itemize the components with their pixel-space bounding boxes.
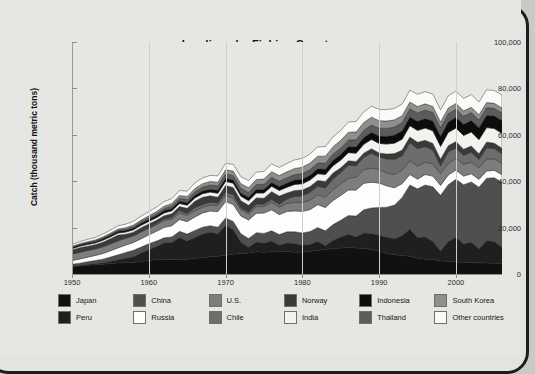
y-tick-label: 40,000	[455, 177, 521, 186]
legend-swatch-japan	[58, 294, 71, 307]
legend-swatch-us	[209, 294, 222, 307]
vertical-gridline	[379, 42, 380, 274]
x-tick-mark	[226, 274, 227, 278]
legend-swatch-russia	[133, 311, 146, 324]
y-tick-mark	[72, 88, 77, 89]
legend-item-peru[interactable]: Peru	[58, 311, 133, 324]
y-tick-mark	[72, 135, 77, 136]
y-tick-mark	[72, 228, 77, 229]
legend-swatch-other	[434, 311, 447, 324]
x-tick-mark	[72, 274, 73, 278]
legend-label: Chile	[227, 313, 244, 322]
vertical-gridline	[302, 42, 303, 274]
x-tick-label: 2000	[448, 278, 465, 287]
legend-row: PeruRussiaChileIndiaThailandOther countr…	[58, 311, 510, 324]
plot-area	[72, 42, 502, 274]
legend-swatch-peru	[58, 311, 71, 324]
legend-item-us[interactable]: U.S.	[209, 294, 284, 307]
legend-swatch-china	[133, 294, 146, 307]
legend-item-other[interactable]: Other countries	[434, 311, 509, 324]
legend-swatch-thailand	[359, 311, 372, 324]
stacked-area-series	[72, 42, 502, 274]
legend-item-indonesia[interactable]: Indonesia	[359, 294, 434, 307]
legend-item-chile[interactable]: Chile	[209, 311, 284, 324]
x-tick-label: 1950	[64, 278, 81, 287]
legend-label: China	[151, 296, 171, 305]
legend-label: Russia	[151, 313, 174, 322]
legend-label: U.S.	[227, 296, 242, 305]
chart-legend: JapanChinaU.S.NorwayIndonesiaSouth Korea…	[58, 294, 510, 328]
legend-item-india[interactable]: India	[284, 311, 359, 324]
vertical-gridline	[226, 42, 227, 274]
x-tick-mark	[302, 274, 303, 278]
y-tick-label: 0	[455, 270, 521, 279]
legend-label: Japan	[76, 296, 96, 305]
x-tick-mark	[149, 274, 150, 278]
legend-label: India	[302, 313, 318, 322]
x-tick-label: 1970	[217, 278, 234, 287]
chart-sheet: Landings by Fishing Country Source: The …	[0, 0, 521, 356]
legend-label: Peru	[76, 313, 92, 322]
x-tick-mark	[456, 274, 457, 278]
legend-swatch-indonesia	[359, 294, 372, 307]
legend-item-china[interactable]: China	[133, 294, 208, 307]
legend-item-norway[interactable]: Norway	[284, 294, 359, 307]
legend-swatch-norway	[284, 294, 297, 307]
legend-item-south_korea[interactable]: South Korea	[434, 294, 509, 307]
legend-row: JapanChinaU.S.NorwayIndonesiaSouth Korea	[58, 294, 510, 307]
y-tick-mark	[72, 181, 77, 182]
legend-item-japan[interactable]: Japan	[58, 294, 133, 307]
legend-label: Indonesia	[377, 296, 410, 305]
legend-label: Other countries	[452, 313, 503, 322]
legend-label: Norway	[302, 296, 327, 305]
legend-swatch-india	[284, 311, 297, 324]
vertical-gridline	[456, 42, 457, 274]
legend-swatch-chile	[209, 311, 222, 324]
x-tick-label: 1990	[371, 278, 388, 287]
x-tick-mark	[379, 274, 380, 278]
y-tick-label: 80,000	[455, 84, 521, 93]
vertical-gridline	[149, 42, 150, 274]
y-axis-label: Catch (thousand metric tons)	[29, 67, 39, 227]
legend-label: Thailand	[377, 313, 406, 322]
y-axis-line	[72, 42, 73, 274]
legend-item-thailand[interactable]: Thailand	[359, 311, 434, 324]
x-tick-label: 1960	[140, 278, 157, 287]
y-tick-label: 20,000	[455, 223, 521, 232]
y-tick-mark	[72, 42, 77, 43]
legend-swatch-south_korea	[434, 294, 447, 307]
legend-item-russia[interactable]: Russia	[133, 311, 208, 324]
x-axis-line	[72, 274, 502, 275]
y-tick-label: 100,000	[455, 38, 521, 47]
legend-label: South Korea	[452, 296, 494, 305]
x-tick-label: 1980	[294, 278, 311, 287]
y-tick-label: 60,000	[455, 130, 521, 139]
